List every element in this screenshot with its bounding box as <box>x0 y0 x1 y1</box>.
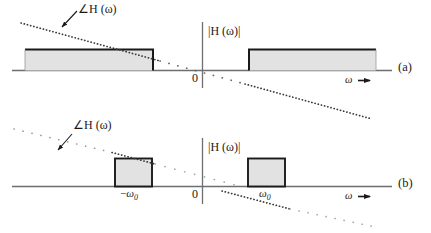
panel-b-magnitude-label: |H (ω)| <box>208 141 240 153</box>
panel-b-omega-axis-label: ω <box>345 191 352 202</box>
panel-b-tag: (b) <box>398 177 413 190</box>
panel-b-phase-line-right <box>222 191 290 209</box>
panel-a-band-left-fill <box>25 50 153 71</box>
panel-b-band-left <box>115 159 152 187</box>
panel-a-phase-line-lower <box>245 84 372 119</box>
panel-b-origin-label: 0 <box>192 188 198 200</box>
tick-pos-subscript: 0 <box>267 193 271 202</box>
tick-neg-subscript: 0 <box>134 193 138 202</box>
panel-b-phase-label: ∠H (ω) <box>73 119 112 131</box>
panel-a-phase-leader-arrow <box>62 11 77 27</box>
panel-b-tick-negative-omega0: −ω0 <box>120 188 138 201</box>
panel-b-plot <box>12 129 392 228</box>
panel-b-band-right <box>248 159 285 187</box>
tick-pos-omega: ω <box>259 187 267 199</box>
panel-a-phase-label: ∠H (ω) <box>78 3 117 15</box>
panel-a-plot <box>12 11 392 119</box>
panel-b-phase-leader-arrow <box>58 134 72 150</box>
panel-a-magnitude-label: |H (ω)| <box>208 25 240 37</box>
panel-b-phase-line-mid <box>155 164 243 187</box>
figure-canvas: ∠H (ω) |H (ω)| 0 ω (a) ∠H (ω) |H (ω)| 0 … <box>0 0 431 233</box>
panel-a-omega-axis-label: ω <box>345 75 352 86</box>
panel-a-tag: (a) <box>398 61 412 74</box>
panel-b-tick-positive-omega0: ω0 <box>259 188 271 201</box>
panel-b-phase-line-far-right <box>290 209 380 228</box>
tick-neg-omega: ω <box>126 187 134 199</box>
panel-b-phase-line-far-left <box>14 129 110 152</box>
panel-a-origin-label: 0 <box>192 72 198 84</box>
panel-a-band-right-fill <box>249 50 376 71</box>
